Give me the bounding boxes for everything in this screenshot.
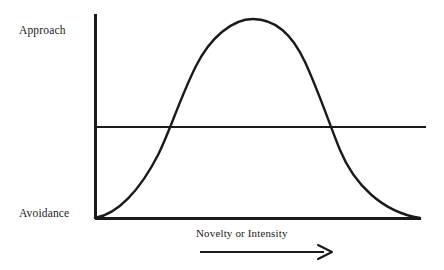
data-curve — [95, 19, 420, 218]
figure-container: Approach Avoidance Novelty or Intensity — [0, 0, 444, 270]
arrow-right-icon — [200, 245, 332, 259]
y-axis-bottom-label: Avoidance — [19, 207, 69, 219]
x-axis-label: Novelty or Intensity — [196, 227, 288, 239]
y-axis-top-label: Approach — [19, 24, 66, 36]
